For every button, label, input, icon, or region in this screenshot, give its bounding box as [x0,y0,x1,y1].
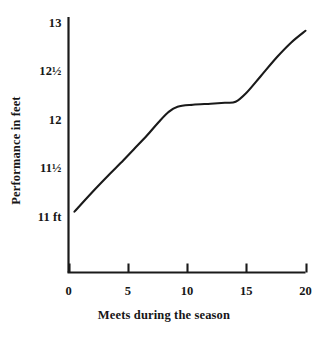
x-axis-tick-label: 15 [226,285,266,298]
x-axis-tick-label: 5 [108,285,148,298]
y-axis-tick-label: 12 [49,114,62,127]
y-axis-tick-label: 11 ft [38,211,62,224]
y-axis-tick-label: 11½ [40,162,62,175]
y-axis-title: Performance in feet [9,81,24,221]
x-axis-tick-label: 20 [286,285,326,298]
performance-data-line [74,31,305,212]
x-axis-tick-label: 10 [167,285,207,298]
x-axis-tick-label: 0 [49,285,89,298]
y-axis-tick-label: 13 [49,17,62,30]
x-axis-tick-marks [70,264,307,273]
line-chart: 11 ft11½1212½13 05101520 Performance in … [0,0,328,341]
axes-group [68,17,306,273]
y-axis-tick-label: 12½ [39,65,61,78]
x-axis-title: Meets during the season [0,308,328,323]
